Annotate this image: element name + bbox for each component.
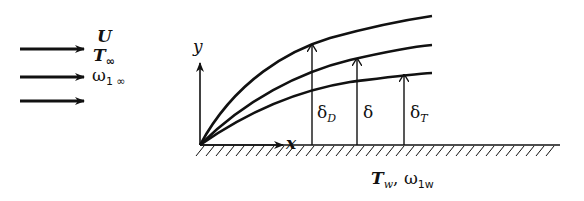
diagram-graphics [0,0,584,201]
delta-t-symbol: δ [410,102,420,122]
temperature-symbol: T [93,45,106,65]
freestream-concentration-label: ω1 ∞ [92,67,126,84]
velocity-symbol: U [97,26,112,46]
wall [196,145,560,156]
concentration-symbol: ω [92,65,106,85]
delta-symbol: δ [363,102,373,122]
wall-temperature-subscript: w [384,178,393,191]
delta-d-label: δD [317,104,336,121]
freestream-temperature-label: T∞ [93,47,115,64]
delta-d-symbol: δ [317,102,327,122]
wall-conditions-label: Tw, ω1w [371,170,434,187]
wall-concentration-symbol: ω [404,168,418,188]
y-axis-label: y [193,38,203,55]
delta-t-subscript: T [420,112,427,125]
wall-separator: , [393,168,398,188]
x-axis-label: x [286,135,296,152]
wall-hatching [196,146,554,156]
freestream-arrows [20,49,84,101]
concentration-boundary-layer-curve [200,16,432,145]
delta-t-label: δT [410,104,428,121]
delta-d-subscript: D [327,112,336,125]
delta-label: δ [363,104,373,121]
wall-concentration-subscript: 1w [418,178,434,191]
concentration-subscript: 1 ∞ [106,75,126,88]
y-label-text: y [193,36,203,56]
freestream-velocity-label: U [97,28,112,45]
boundary-layer-diagram: U T∞ ω1 ∞ y x δD δ δT Tw, ω1w [0,0,584,201]
thermal-boundary-layer-curve [200,73,432,145]
wall-temperature-symbol: T [371,168,384,188]
x-label-text: x [286,133,296,153]
